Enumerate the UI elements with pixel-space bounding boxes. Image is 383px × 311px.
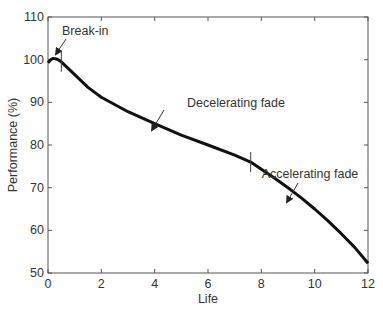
annotation-label: Accelerating fade — [262, 167, 359, 181]
y-tick-label: 90 — [30, 95, 44, 109]
x-tick-label: 4 — [151, 277, 158, 291]
annotation-label: Decelerating fade — [187, 96, 285, 110]
y-tick-label: 50 — [30, 266, 44, 280]
annotation-label: Break-in — [62, 24, 109, 38]
x-tick-label: 6 — [205, 277, 212, 291]
performance-chart: 5060708090100110 024681012 Break-inDecel… — [0, 0, 383, 311]
y-tick-label: 60 — [30, 223, 44, 237]
y-tick-label: 100 — [23, 53, 44, 67]
y-tick-label: 70 — [30, 181, 44, 195]
x-tick-label: 0 — [45, 277, 52, 291]
x-tick-label: 2 — [98, 277, 105, 291]
y-axis-label: Performance (%) — [6, 98, 20, 192]
x-tick-label: 8 — [258, 277, 265, 291]
y-tick-label: 80 — [30, 138, 44, 152]
x-tick-label: 10 — [308, 277, 322, 291]
x-tick-label: 12 — [361, 277, 375, 291]
y-tick-label: 110 — [24, 10, 44, 24]
x-axis-label: Life — [198, 292, 218, 306]
